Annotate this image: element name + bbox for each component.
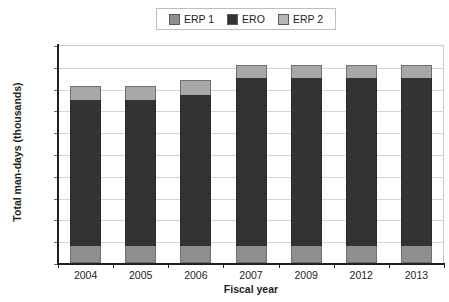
legend-swatch-erp1 bbox=[169, 14, 180, 25]
bar-segment-erp-2 bbox=[401, 65, 432, 78]
x-axis-line bbox=[57, 263, 444, 265]
bar-segment-ero bbox=[346, 78, 377, 246]
x-axis-tick bbox=[444, 263, 445, 268]
bar-segment-erp-2 bbox=[70, 86, 101, 99]
x-axis-title: Fiscal year bbox=[58, 283, 444, 295]
x-axis-tick bbox=[389, 263, 390, 268]
x-axis-label-2013: 2013 bbox=[389, 269, 443, 281]
bar-segment-ero bbox=[236, 78, 267, 246]
x-axis-tick bbox=[223, 263, 224, 268]
bar-segment-ero bbox=[291, 78, 322, 246]
bar-2012 bbox=[346, 65, 377, 263]
legend-label-erp1: ERP 1 bbox=[184, 14, 214, 25]
legend-swatch-ero bbox=[227, 14, 238, 25]
bar-segment-erp-1 bbox=[70, 246, 101, 263]
bar-segment-erp-1 bbox=[125, 246, 156, 263]
bar-2006 bbox=[180, 80, 211, 263]
bar-2007 bbox=[236, 65, 267, 263]
y-axis-line bbox=[57, 44, 59, 264]
bar-2013 bbox=[401, 65, 432, 263]
bar-segment-erp-2 bbox=[236, 65, 267, 78]
legend-entry-erp2: ERP 2 bbox=[278, 14, 323, 25]
bar-segment-erp-2 bbox=[180, 80, 211, 95]
bar-segment-erp-1 bbox=[291, 246, 322, 263]
bar-segment-ero bbox=[401, 78, 432, 246]
bar-segment-erp-1 bbox=[180, 246, 211, 263]
bar-segment-erp-1 bbox=[401, 246, 432, 263]
legend-swatch-erp2 bbox=[278, 14, 289, 25]
x-axis-tick bbox=[334, 263, 335, 268]
bar-segment-erp-2 bbox=[291, 65, 322, 78]
x-axis-label-2007: 2007 bbox=[224, 269, 278, 281]
x-axis-label-2009: 2009 bbox=[279, 269, 333, 281]
x-axis-label-2012: 2012 bbox=[334, 269, 388, 281]
chart-legend: ERP 1 ERO ERP 2 bbox=[156, 8, 336, 30]
bar-segment-erp-1 bbox=[236, 246, 267, 263]
legend-entry-ero: ERO bbox=[227, 14, 265, 25]
x-axis-tick bbox=[279, 263, 280, 268]
x-axis-tick bbox=[113, 263, 114, 268]
legend-label-ero: ERO bbox=[242, 14, 265, 25]
bar-segment-ero bbox=[125, 100, 156, 246]
x-axis-tick bbox=[58, 263, 59, 268]
bar-2005 bbox=[125, 86, 156, 263]
bar-segment-erp-2 bbox=[125, 86, 156, 99]
bar-segment-ero bbox=[70, 100, 101, 246]
x-axis-label-2006: 2006 bbox=[169, 269, 223, 281]
plot-area bbox=[58, 45, 444, 263]
bar-segment-ero bbox=[180, 95, 211, 245]
y-axis-title: Total man-days (thousands) bbox=[11, 42, 23, 262]
bar-segment-erp-2 bbox=[346, 65, 377, 78]
bar-2004 bbox=[70, 86, 101, 263]
x-axis-label-2004: 2004 bbox=[59, 269, 113, 281]
x-axis-label-2005: 2005 bbox=[114, 269, 168, 281]
bar-2009 bbox=[291, 65, 322, 263]
stacked-bar-chart: ERP 1 ERO ERP 2 Total man-days (thousand… bbox=[0, 0, 449, 302]
x-axis-tick bbox=[168, 263, 169, 268]
legend-label-erp2: ERP 2 bbox=[293, 14, 323, 25]
legend-entry-erp1: ERP 1 bbox=[169, 14, 214, 25]
bar-segment-erp-1 bbox=[346, 246, 377, 263]
